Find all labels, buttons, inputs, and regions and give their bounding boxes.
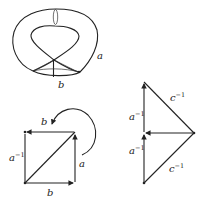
lower-hyp-label-c-inv: c−1	[169, 162, 184, 174]
square-label-left-a-inv: a−1	[9, 151, 25, 163]
upper-hypotenuse	[144, 82, 194, 133]
torus-label-a: a	[97, 50, 103, 61]
upper-left-label-a-inv: a−1	[129, 110, 145, 122]
torus-outer-outline	[13, 9, 98, 76]
torus-figure: a b	[13, 9, 103, 90]
vertex-bottom	[143, 182, 146, 185]
base-point	[78, 71, 81, 74]
square-figure: b a−1 a b	[9, 109, 96, 198]
square-label-top-b: b	[41, 116, 47, 127]
torus-label-b: b	[58, 79, 64, 90]
lower-left-label-a-inv: a−1	[129, 144, 145, 156]
square-label-right-a: a	[79, 158, 85, 169]
square-diagonal	[25, 132, 75, 183]
upper-hyp-label-c-inv: c−1	[170, 91, 185, 103]
lower-hypotenuse	[144, 133, 194, 183]
vertex-right	[193, 132, 196, 135]
diagram-canvas: a b b a−1 a b c−1 a−1 a−1	[0, 0, 204, 205]
pinch-point	[53, 59, 55, 61]
triangles-figure: c−1 a−1 a−1 c−1	[129, 82, 195, 184]
square-label-bottom-b: b	[47, 187, 53, 198]
torus-inner-loop	[31, 26, 79, 72]
vertex-top-left	[24, 131, 27, 134]
meridian-ellipse	[53, 10, 57, 25]
vertex-bottom-left	[24, 182, 27, 185]
cut-line-right	[54, 60, 78, 72]
